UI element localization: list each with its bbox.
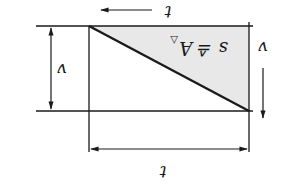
label-time-bottom: t bbox=[159, 162, 166, 182]
label-velocity-left: v bbox=[57, 60, 67, 80]
label-time-top: t bbox=[164, 2, 171, 22]
formula-main: s ≙ A bbox=[179, 38, 228, 59]
formula-subscript: △ bbox=[170, 35, 178, 46]
label-velocity-right: v bbox=[258, 38, 268, 58]
velocity-time-diagram: t t v v s ≙ A △ bbox=[0, 0, 285, 185]
diagram-canvas: t t v v s ≙ A △ bbox=[0, 0, 285, 185]
